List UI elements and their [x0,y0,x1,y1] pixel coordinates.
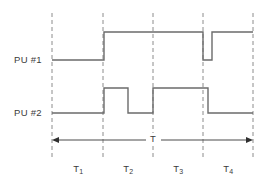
interval-label-t1-subscript: 1 [79,168,83,175]
interval-label-t3-subscript: 3 [179,168,183,175]
interval-label-t4-subscript: 4 [229,168,233,175]
signal-label-pu1: PU #1 [14,54,42,65]
period-arrow-right-head [246,137,253,143]
interval-label-t3-text: T [173,163,179,174]
interval-label-t1-text: T [73,163,79,174]
interval-label-t2-text: T [123,163,129,174]
interval-label-t3: T3 [173,163,183,174]
interval-label-t4-text: T [223,163,229,174]
waveform-pu2 [52,88,253,113]
period-label: T [147,133,159,144]
signal-label-pu2: PU #2 [14,107,42,118]
interval-label-t1: T1 [73,163,83,174]
interval-label-t2-subscript: 2 [129,168,133,175]
interval-label-t4: T4 [223,163,233,174]
interval-label-t2: T2 [123,163,133,174]
period-arrow-left-head [52,137,59,143]
timing-diagram-canvas [0,0,268,186]
timing-diagram: PU #1 PU #2 T T1 T2 T3 T4 [0,0,268,186]
